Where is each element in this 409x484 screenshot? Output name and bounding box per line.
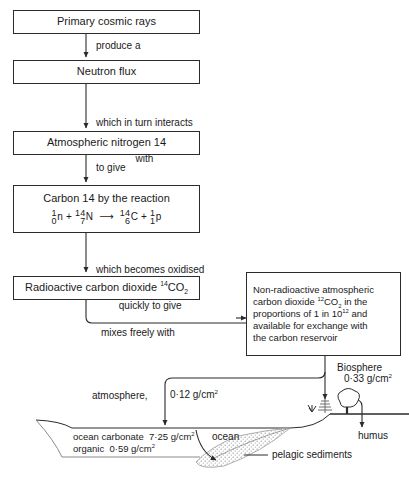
atmosphere-value: 0·12 g/cm2 [170,389,218,401]
reservoir-line-3: proportions of 1 in 1012 and [253,308,367,320]
flow-box-label: Primary cosmic rays [57,15,156,29]
ocean-carbonate-label: ocean carbonate 7·25 g/cm2 [73,431,195,442]
pelagic-sediments-label: pelagic sediments [272,449,352,461]
carbon-14-reaction-equation: 10n + 147N ⟶ 146C + 11p [51,209,161,226]
reservoir-line-5: the carbon reservoir [253,332,337,344]
pelagic-sediment-wedge [196,428,290,467]
flow-box-primary-cosmic-rays[interactable]: Primary cosmic rays [13,10,200,34]
reservoir-line-2: carbon dioxide 12CO2 in the [253,296,367,308]
grass-tuft [308,405,316,412]
ocean-label: ocean [212,431,239,443]
biosphere-value: 0·33 g/cm2 [344,373,392,385]
flow-box-neutron-flux[interactable]: Neutron flux [13,60,200,84]
connector-label-mixes-freely-with: mixes freely with [101,327,175,339]
atmosphere-label: atmosphere, [92,390,148,402]
flow-box-label: Neutron flux [77,65,136,79]
flow-box-label: Carbon 14 by the reaction [43,192,170,206]
connector-label-which-becomes-oxidised: which becomes oxidised quickly to give [96,240,204,324]
reservoir-box-non-radioactive-co2[interactable]: Non-radioactive atmospheric carbon dioxi… [246,272,401,356]
connector-label-line1: which in turn interacts [96,117,193,129]
humus-label: humus [358,430,388,442]
conifer-tree [318,399,332,413]
connector-label-produce-a: produce a [96,40,140,52]
coastline-rise [290,414,409,428]
broadleaf-tree [338,389,360,415]
ocean-organic-label: organic 0·59 g/cm2 [73,443,155,454]
connector-label-line1: which becomes oxidised [96,264,204,276]
ocean-surface-line [36,420,290,428]
reservoir-line-1: Non-radioactive atmospheric [253,284,374,296]
connector-label-line2: quickly to give [96,300,204,312]
flow-box-carbon-14-reaction[interactable]: Carbon 14 by the reaction 10n + 147N ⟶ 1… [13,185,200,233]
reservoir-line-4: available for exchange with [253,320,368,332]
connector-label-to-give: to give [96,162,125,174]
